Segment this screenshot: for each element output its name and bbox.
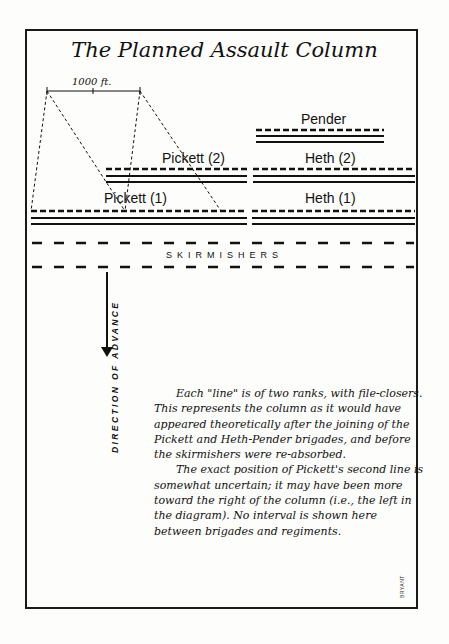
scale-label: 1000 ft. [72,76,112,87]
label-heth-2: Heth (2) [305,150,356,166]
artist-credit: BRYANT [399,575,405,598]
note-paragraph-1: Each "line" is of two ranks, with file-c… [154,386,424,462]
line-pickett-1 [31,211,247,224]
label-pickett-1: Pickett (1) [104,190,167,206]
label-pickett-2: Pickett (2) [162,150,225,166]
line-pickett-2 [106,169,247,182]
label-heth-1: Heth (1) [305,190,356,206]
explanatory-note: Each "line" is of two ranks, with file-c… [154,386,424,539]
diagram-title: The Planned Assault Column [0,38,449,62]
diagram-graphics [0,0,449,644]
scale-bar [47,87,140,95]
skirmishers-label: SKIRMISHERS [0,250,449,260]
line-heth-2 [253,169,415,182]
note-paragraph-2: The exact position of Pickett's second l… [154,462,424,538]
line-pender [256,130,384,142]
label-pender: Pender [301,111,346,127]
direction-label: DIRECTION OF ADVANCE [110,301,120,453]
line-heth-1 [252,211,415,224]
